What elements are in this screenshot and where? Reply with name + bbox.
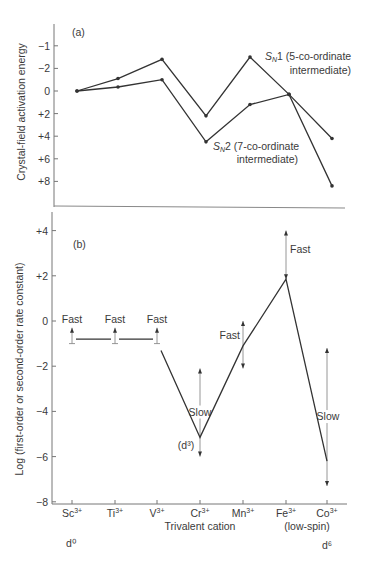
- x-axis-label: Trivalent cation: [165, 520, 236, 532]
- x-tick-label: Sc3+: [62, 507, 82, 519]
- x-tick-label: V3+: [150, 507, 165, 519]
- panel-b: +4+20−2−4−6−8 Sc3+Ti3+V3+Cr3+Mn3+Fe3+Co3…: [13, 212, 347, 551]
- y-tick-label: +8: [38, 175, 50, 187]
- sn1-label-sub: intermediate): [290, 64, 351, 76]
- x-tick-label: Cr3+: [190, 507, 209, 519]
- panel-b-y-ticks: +4+20−2−4−6−8: [36, 225, 56, 508]
- d6-label: d⁶: [322, 539, 332, 551]
- y-tick-label: −1: [38, 40, 50, 52]
- data-point: [248, 55, 252, 59]
- data-point: [330, 184, 334, 188]
- rate-label: Fast: [105, 313, 126, 325]
- y-tick-label: +2: [36, 270, 48, 282]
- sn2-label-sub: intermediate): [237, 153, 298, 165]
- y-tick-label: 0: [44, 85, 50, 97]
- low-spin-label: (low-spin): [284, 520, 330, 532]
- y-tick-label: 0: [42, 315, 48, 327]
- rate-label: Fast: [62, 313, 83, 325]
- panel-a: −1−20+2+4+6+8 (a) Crystal-field activati…: [15, 24, 351, 207]
- arrowhead-icon: [325, 481, 329, 486]
- data-point: [160, 58, 164, 62]
- arrowhead-icon: [113, 328, 117, 333]
- panel-b-x-ticks: Sc3+Ti3+V3+Cr3+Mn3+Fe3+Co3+: [62, 500, 338, 519]
- y-tick-label: −6: [36, 451, 48, 463]
- rate-label: Slow: [317, 410, 340, 422]
- d3-label: (d³): [178, 439, 194, 451]
- panel-a-y-ticks: −1−20+2+4+6+8: [38, 40, 58, 188]
- sn2-label: SN2 (7-co-ordinate: [213, 140, 299, 153]
- x-tick-label: Mn3+: [232, 507, 255, 519]
- y-tick-label: −2: [38, 62, 50, 74]
- arrowhead-icon: [325, 348, 329, 353]
- rate-annotation: Slow: [314, 348, 342, 486]
- arrowhead-icon: [284, 231, 288, 236]
- sn1-label: SN1 (5-co-ordinate: [265, 50, 351, 63]
- x-tick-label: Ti3+: [107, 507, 123, 519]
- panel-b-series: [76, 279, 327, 461]
- rate-label: Fast: [220, 329, 241, 341]
- rate-annotation: Fast: [284, 231, 311, 280]
- panel-divider: [54, 206, 345, 208]
- panel-a-y-axis-label: Crystal-field activation energy: [15, 42, 27, 180]
- arrowhead-icon: [198, 368, 202, 373]
- panel-a-label: (a): [72, 26, 85, 38]
- arrowhead-icon: [70, 328, 74, 333]
- rate-label: Fast: [147, 313, 168, 325]
- y-tick-label: −8: [36, 496, 48, 508]
- data-point: [75, 89, 79, 93]
- data-point: [287, 93, 291, 97]
- arrowhead-icon: [241, 321, 245, 326]
- panel-b-rate-arrows: FastFastFastSlow(d³)FastFastSlow: [62, 231, 342, 486]
- y-tick-label: +4: [36, 225, 48, 237]
- rate-label: Slow: [189, 406, 212, 418]
- x-tick-label: Fe3+: [276, 507, 296, 519]
- data-point: [330, 137, 334, 141]
- series-line-log-k: [161, 279, 327, 461]
- y-tick-label: +4: [38, 130, 50, 142]
- y-tick-label: −2: [36, 360, 48, 372]
- series-line-sn2: [77, 80, 332, 186]
- rate-annotation: Fast: [220, 321, 245, 368]
- y-tick-label: −4: [36, 405, 48, 417]
- arrowhead-icon: [241, 363, 245, 368]
- rate-label: Fast: [290, 243, 311, 255]
- panel-b-y-axis-label: Log (first-order or second-order rate co…: [13, 262, 25, 475]
- y-tick-label: +6: [38, 153, 50, 165]
- data-point: [204, 140, 208, 144]
- d0-label: d⁰: [66, 537, 77, 549]
- chart-figure: −1−20+2+4+6+8 (a) Crystal-field activati…: [0, 0, 365, 571]
- data-point: [248, 103, 252, 107]
- y-tick-label: +2: [38, 108, 50, 120]
- data-point: [116, 85, 120, 89]
- data-point: [116, 77, 120, 81]
- data-point: [160, 78, 164, 82]
- x-tick-label: Co3+: [316, 507, 337, 519]
- arrowhead-icon: [155, 328, 159, 333]
- arrowhead-icon: [198, 452, 202, 457]
- panel-b-label: (b): [73, 238, 86, 250]
- data-point: [204, 114, 208, 118]
- rate-annotation: Slow(d³): [178, 368, 214, 456]
